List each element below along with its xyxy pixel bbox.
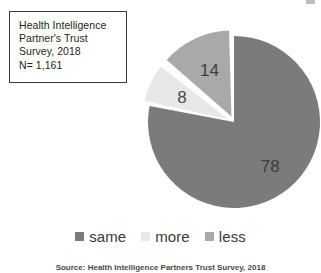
annotation-line-2: Partner's Trust bbox=[19, 32, 126, 45]
legend-swatch-same bbox=[75, 232, 84, 241]
legend-item-same[interactable]: same bbox=[75, 228, 126, 245]
pie-label-less: 14 bbox=[200, 61, 219, 80]
legend-label-more: more bbox=[155, 228, 190, 245]
pie-chart: 78814 bbox=[142, 28, 321, 216]
legend-item-more[interactable]: more bbox=[141, 228, 190, 245]
legend-swatch-more bbox=[141, 232, 150, 241]
legend-swatch-less bbox=[205, 232, 214, 241]
annotation-line-1: Health Intelligence bbox=[19, 19, 126, 32]
legend-item-less[interactable]: less bbox=[205, 228, 246, 245]
pie-chart-svg: 78814 bbox=[142, 28, 321, 216]
legend-label-less: less bbox=[219, 228, 246, 245]
survey-annotation-box: Health Intelligence Partner's Trust Surv… bbox=[9, 11, 127, 83]
pie-slices bbox=[145, 31, 320, 208]
pie-label-same: 78 bbox=[261, 157, 280, 176]
legend-label-same: same bbox=[89, 228, 126, 245]
chart-legend: same more less bbox=[0, 228, 321, 245]
annotation-line-4: N= 1,161 bbox=[19, 59, 126, 72]
annotation-line-3: Survey, 2018 bbox=[19, 45, 126, 58]
top-edge-artifact bbox=[306, 0, 315, 4]
source-caption: Source: Health Intelligence Partners Tru… bbox=[0, 263, 321, 272]
pie-label-more: 8 bbox=[177, 88, 186, 107]
